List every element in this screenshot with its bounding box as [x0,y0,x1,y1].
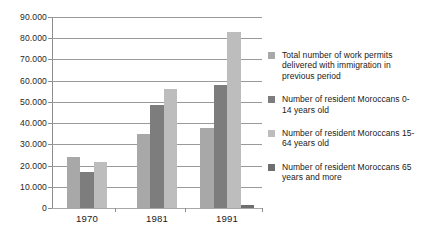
y-axis-tick [48,166,52,167]
bar [94,162,108,208]
chart-legend: Total number of work permits delivered w… [268,50,418,196]
bar-chart: 010.00020.00030.00040.00050.00060.00070.… [0,0,421,248]
y-axis-tick-label: 30.000 [0,139,47,149]
legend-swatch-icon [268,96,275,103]
bar [150,105,164,208]
y-axis-tick [48,38,52,39]
x-axis-line [52,208,262,209]
y-axis-tick-label: 80.000 [0,33,47,43]
x-axis-category-label: 1991 [216,213,238,224]
y-axis-tick [48,102,52,103]
legend-item-label: Number of resident Moroccans 65 years an… [282,162,418,183]
y-axis-tick [48,81,52,82]
x-axis-tick [262,208,263,212]
gridline [52,17,262,18]
legend-item-label: Total number of work permits delivered w… [282,50,418,81]
y-axis-tick [48,144,52,145]
y-axis-tick-label: 70.000 [0,54,47,64]
legend-item-label: Number of resident Moroccans 15-64 years… [282,128,418,149]
bar [200,128,214,208]
legend-item[interactable]: Total number of work permits delivered w… [268,50,418,81]
bar [214,85,228,208]
legend-item[interactable]: Number of resident Moroccans 65 years an… [268,162,418,183]
y-axis-tick-label: 40.000 [0,118,47,128]
bar [241,205,255,208]
legend-item[interactable]: Number of resident Moroccans 0-14 years … [268,94,418,115]
x-axis-tick [185,208,186,212]
y-axis-tick-label: 90.000 [0,12,47,22]
legend-swatch-icon [268,130,275,137]
legend-swatch-icon [268,52,275,59]
y-axis-line [52,17,53,209]
legend-item-label: Number of resident Moroccans 0-14 years … [282,94,418,115]
bar [67,157,81,208]
y-axis-tick [48,208,52,209]
bar [227,32,241,208]
y-axis-tick-label: 0 [0,203,47,213]
y-axis-tick [48,187,52,188]
x-axis-tick [115,208,116,212]
bar [80,172,94,208]
y-axis-tick [48,123,52,124]
y-axis-tick-label: 60.000 [0,76,47,86]
y-axis-tick [48,17,52,18]
y-axis-tick-label: 20.000 [0,161,47,171]
x-axis-category-label: 1981 [146,213,168,224]
y-axis-tick [48,59,52,60]
legend-swatch-icon [268,164,275,171]
y-axis-tick-label: 10.000 [0,182,47,192]
plot-area [52,17,262,209]
x-axis-category-label: 1970 [76,213,98,224]
bar [164,89,178,208]
legend-item[interactable]: Number of resident Moroccans 15-64 years… [268,128,418,149]
bar [137,134,151,208]
y-axis-tick-label: 50.000 [0,97,47,107]
